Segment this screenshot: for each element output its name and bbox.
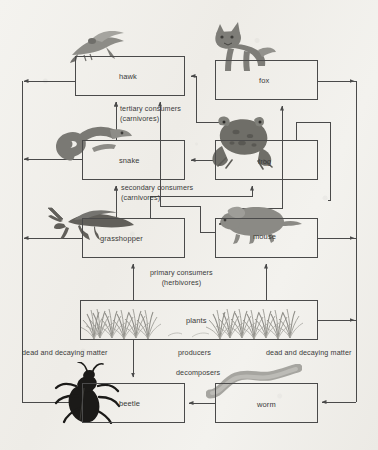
node-label-mouse: mouse <box>253 232 276 241</box>
trophic-label-primary-line1: primary consumers <box>150 268 213 278</box>
trophic-label-secondary-line1: secondary consumers <box>121 183 193 193</box>
node-label-fox: fox <box>259 76 269 85</box>
trophic-label-producers: producers <box>178 348 211 358</box>
trophic-label-secondary: secondary consumers (carnivores) <box>121 183 193 202</box>
node-label-frog: frog <box>258 157 271 166</box>
node-label-hawk: hawk <box>119 72 137 81</box>
trophic-label-tertiary-line2: (carnivores) <box>120 114 181 124</box>
trophic-label-primary-line2: (herbivores) <box>150 278 213 288</box>
trophic-label-decomposers: decomposers <box>176 368 220 378</box>
trophic-label-tertiary-line1: tertiary consumers <box>120 104 181 114</box>
trophic-label-tertiary: tertiary consumers (carnivores) <box>120 104 181 123</box>
node-label-grasshopper: grasshopper <box>100 234 143 243</box>
trophic-label-primary: primary consumers (herbivores) <box>150 268 213 287</box>
label-dead-matter-right: dead and decaying matter <box>266 348 352 358</box>
connector-layer <box>0 0 378 450</box>
food-web-diagram: hawk fox snake frog grasshopper mouse pl… <box>0 0 378 450</box>
node-label-beetle: beetle <box>119 399 140 408</box>
trophic-label-secondary-line2: (carnivores) <box>121 193 193 203</box>
node-label-worm: worm <box>257 400 276 409</box>
label-dead-matter-left: dead and decaying matter <box>22 348 108 358</box>
node-label-snake: snake <box>119 156 140 165</box>
node-label-plants: plants <box>186 316 207 325</box>
